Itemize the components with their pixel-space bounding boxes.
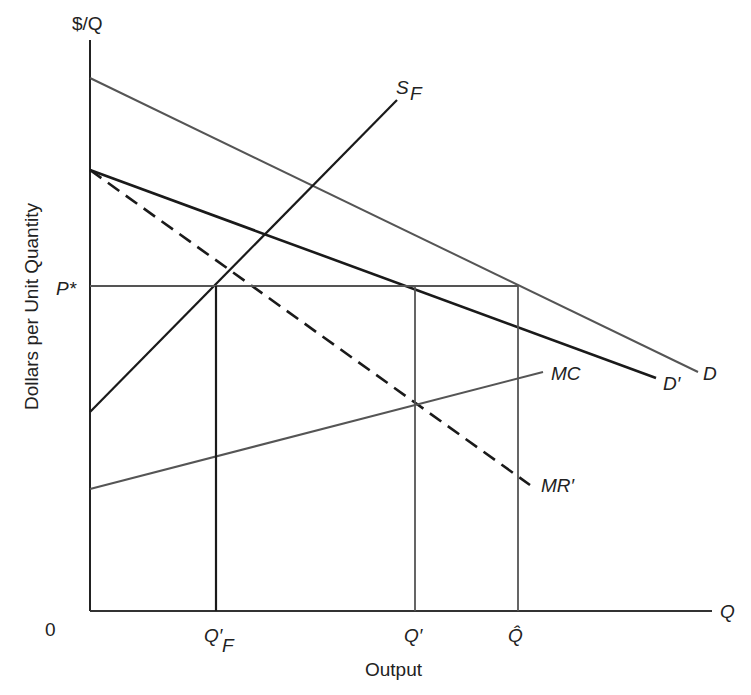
label-s-f-sub: F bbox=[410, 83, 423, 104]
label-s-f: S bbox=[396, 77, 409, 98]
origin-label: 0 bbox=[45, 619, 56, 640]
x-tick-q-hat: Q̂ bbox=[508, 625, 523, 646]
label-d: D bbox=[703, 363, 717, 384]
label-d-prime: D′ bbox=[663, 373, 682, 394]
y-axis-top-label: $/Q bbox=[72, 13, 103, 34]
x-axis-label: Output bbox=[365, 659, 423, 680]
label-mr-prime: MR′ bbox=[541, 475, 576, 496]
y-axis-label: Dollars per Unit Quantity bbox=[21, 203, 42, 410]
dominant-firm-diagram: $/Q P* 0 Q Q′ F Q′ Q̂ Output S F D D′ MC… bbox=[0, 0, 751, 695]
demand-curve-d bbox=[90, 78, 698, 372]
marginal-cost-curve bbox=[90, 372, 543, 489]
marginal-revenue-curve bbox=[90, 170, 530, 485]
x-tick-q-f-sub: F bbox=[222, 635, 235, 656]
label-mc: MC bbox=[551, 363, 581, 384]
x-tick-q-prime: Q′ bbox=[404, 625, 424, 646]
demand-curve-d-prime bbox=[90, 170, 656, 378]
price-label: P* bbox=[56, 278, 77, 299]
x-tick-q-f-prime: Q′ bbox=[204, 625, 224, 646]
fringe-supply-curve bbox=[90, 100, 397, 412]
x-axis-end-label: Q bbox=[720, 601, 735, 622]
